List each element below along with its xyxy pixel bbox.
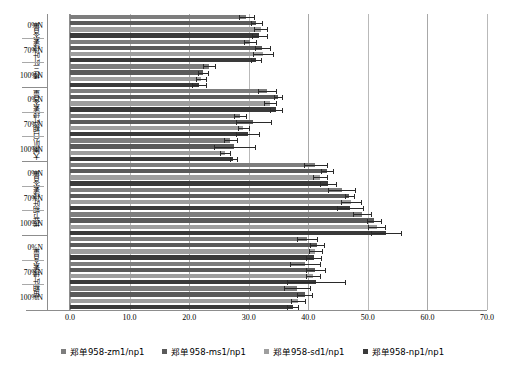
bar [70, 70, 203, 74]
error-bar [284, 288, 310, 289]
error-bar [244, 42, 256, 43]
error-bar-cap [264, 101, 265, 106]
error-bar-cap [328, 188, 329, 193]
error-bar-cap [206, 83, 207, 88]
error-bar-cap [237, 157, 238, 162]
gridline [487, 14, 488, 310]
error-bar-cap [261, 58, 262, 63]
error-bar-cap [255, 145, 256, 150]
legend-item[interactable]: 郑单958-np1/np1 [363, 345, 445, 357]
error-bar [297, 295, 312, 296]
bar [70, 52, 263, 56]
error-bar-cap [215, 64, 216, 69]
error-bar-cap [284, 286, 285, 291]
level-band: 0%N [22, 88, 44, 113]
level-axis-label: 0%N [28, 243, 43, 252]
error-bar-cap [297, 237, 298, 242]
error-bar [264, 103, 276, 104]
error-bar-cap [254, 27, 255, 32]
bar [70, 280, 316, 284]
error-bar [290, 264, 320, 265]
x-tick-label: 0.0 [65, 313, 75, 322]
error-bar [203, 66, 215, 67]
error-bar [328, 190, 355, 191]
legend-swatch-icon [61, 349, 66, 354]
error-bar [255, 48, 269, 49]
error-bar-cap [276, 101, 277, 106]
error-bar-cap [321, 169, 322, 174]
error-bar-cap [253, 52, 254, 57]
bar [70, 231, 386, 235]
legend-label: 郑单958-zm1/np1 [70, 345, 145, 357]
x-tick-label: 20.0 [182, 313, 196, 322]
error-bar [234, 116, 246, 117]
x-tick-label: 50.0 [361, 313, 375, 322]
bar [70, 77, 201, 81]
error-bar-cap [237, 138, 238, 143]
error-bar [224, 140, 237, 141]
level-axis-label: 100%N [20, 293, 43, 302]
error-bar-cap [353, 212, 354, 217]
legend-swatch-icon [162, 349, 167, 354]
bar [70, 151, 225, 155]
bar [70, 218, 374, 222]
bar [70, 101, 270, 105]
error-bar-cap [304, 163, 305, 168]
error-bar [345, 196, 355, 197]
bar [70, 120, 253, 124]
bar [70, 15, 246, 19]
level-band: 70%N [22, 39, 44, 64]
error-bar-cap [251, 21, 252, 26]
error-bar-cap [259, 132, 260, 137]
bar [70, 237, 307, 241]
error-bar-cap [321, 256, 322, 261]
error-bar [310, 245, 324, 246]
error-bar [252, 36, 266, 37]
legend-item[interactable]: 郑单958-ms1/np1 [162, 345, 245, 357]
level-axis-label: 0%N [28, 95, 43, 104]
bar [70, 299, 298, 303]
error-bar [291, 301, 305, 302]
error-bar-cap [385, 225, 386, 230]
bar [70, 46, 262, 50]
bar [70, 188, 342, 192]
error-bar-cap [282, 95, 283, 100]
level-band: 70%N [22, 261, 44, 286]
bar [70, 194, 349, 198]
level-axis-label: 70%N [24, 46, 43, 55]
legend-item[interactable]: 郑单958-sd1/np1 [264, 345, 345, 357]
error-bar-cap [371, 212, 372, 217]
error-bar [214, 147, 256, 148]
error-bar-cap [251, 58, 252, 63]
error-bar [306, 258, 320, 259]
error-bar-cap [252, 34, 253, 39]
error-bar [236, 134, 260, 135]
bar [70, 292, 305, 296]
error-bar [320, 184, 335, 185]
error-bar-cap [249, 126, 250, 131]
level-band: 0%N [22, 162, 44, 187]
bar [70, 249, 315, 253]
error-bar-cap [244, 40, 245, 45]
bar [70, 200, 351, 204]
level-axis-label: 100%N [20, 145, 43, 154]
chart-legend: 郑单958-zm1/np1郑单958-ms1/np1郑单958-sd1/np1郑… [0, 340, 505, 362]
legend-item[interactable]: 郑单958-zm1/np1 [61, 345, 145, 357]
error-bar-cap [327, 175, 328, 180]
error-bar [192, 85, 206, 86]
error-bar [313, 177, 327, 178]
error-bar-cap [306, 256, 307, 261]
error-bar [353, 214, 371, 215]
level-axis-label: 0%N [28, 21, 43, 30]
bar [70, 144, 234, 148]
bar [70, 126, 243, 130]
bar [70, 243, 317, 247]
bar [70, 163, 315, 167]
level-band: 100%N [22, 285, 44, 310]
level-band: 100%N [22, 137, 44, 162]
error-bar-cap [267, 27, 268, 32]
bar [70, 286, 297, 290]
error-bar-cap [238, 126, 239, 131]
bar [70, 274, 313, 278]
error-bar-cap [341, 200, 342, 205]
